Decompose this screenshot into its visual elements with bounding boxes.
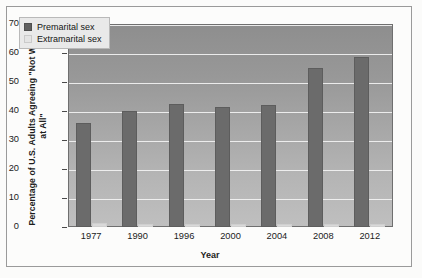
bar-group — [68, 24, 114, 227]
bar — [215, 107, 230, 227]
bar-series-container — [68, 24, 393, 227]
y-axis-tick-label: 10 — [0, 192, 19, 202]
bar-group — [254, 24, 300, 227]
y-axis-tick-mark — [62, 82, 67, 83]
bar — [122, 111, 137, 227]
y-axis-tick-label: 60 — [0, 47, 19, 57]
bar — [324, 224, 339, 227]
bar — [185, 224, 200, 227]
x-axis-tick-label: 2004 — [254, 231, 300, 241]
bar-group — [114, 24, 160, 227]
y-axis-tick-mark — [62, 169, 67, 170]
y-axis-tick-label: 30 — [0, 134, 19, 144]
legend-swatch-icon — [24, 35, 32, 43]
legend-item: Premarital sex — [24, 21, 102, 33]
legend-label: Extramarital sex — [37, 34, 102, 44]
bar — [76, 123, 91, 227]
bar — [370, 224, 385, 227]
x-axis-tick-label: 2012 — [347, 231, 393, 241]
x-axis-title: Year — [7, 250, 413, 260]
x-axis-tick-label: 2008 — [300, 231, 346, 241]
x-axis-tick-label: 2000 — [207, 231, 253, 241]
y-axis-tick-label: 20 — [0, 163, 19, 173]
y-axis-tick-mark — [62, 198, 67, 199]
chart-frame: Percentage of U.S. Adults Agreeing "Not … — [6, 6, 412, 267]
x-axis-tick-label: 1996 — [161, 231, 207, 241]
bar-group — [300, 24, 346, 227]
y-axis-tick-label: 40 — [0, 105, 19, 115]
y-axis-tick-label: 0 — [0, 221, 19, 231]
y-axis-tick-mark — [62, 53, 67, 54]
bar — [169, 104, 184, 227]
y-axis-tick-label: 50 — [0, 76, 19, 86]
bar — [138, 224, 153, 227]
chart-legend: Premarital sexExtramarital sex — [19, 17, 110, 49]
bar-group — [207, 24, 253, 227]
bar — [308, 68, 323, 228]
legend-swatch-icon — [24, 23, 32, 31]
y-axis-title: Percentage of U.S. Adults Agreeing "Not … — [27, 26, 49, 226]
bar — [92, 223, 107, 227]
legend-item: Extramarital sex — [24, 33, 102, 45]
bar-group — [161, 24, 207, 227]
x-axis-tick-label: 1990 — [114, 231, 160, 241]
bar-group — [347, 24, 393, 227]
y-axis-tick-mark — [62, 111, 67, 112]
bar — [261, 105, 276, 227]
x-axis-tick-label: 1977 — [68, 231, 114, 241]
legend-label: Premarital sex — [37, 22, 95, 32]
y-axis-tick-label: 70 — [0, 18, 19, 28]
x-axis-tick-labels: 1977199019962000200420082012 — [68, 231, 393, 241]
bar — [354, 57, 369, 227]
y-axis-tick-mark — [62, 227, 67, 228]
y-axis-tick-mark — [62, 140, 67, 141]
bar — [231, 224, 246, 227]
bar — [277, 224, 292, 227]
